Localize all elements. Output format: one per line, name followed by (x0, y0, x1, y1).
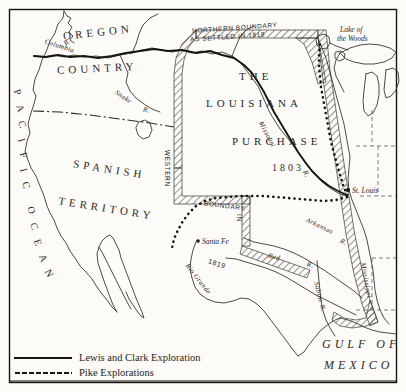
legend-item-lewis-clark: Lewis and Clark Exploration (14, 350, 201, 365)
historical-map: OREGON COUNTRY SPANISH TERRITORY THE LOU… (0, 0, 406, 392)
santa-fe-dot (196, 239, 200, 243)
map-illustration (0, 0, 406, 392)
legend-item-pike: Pike Explorations (14, 365, 201, 380)
legend-key-dotted-line (14, 368, 76, 378)
legend-key-solid-line (14, 353, 76, 363)
legend-label-pike: Pike Explorations (79, 367, 154, 378)
map-legend: Lewis and Clark Exploration Pike Explora… (14, 350, 201, 380)
st-louis-dot (346, 188, 350, 192)
legend-label-lewis-clark: Lewis and Clark Exploration (79, 352, 201, 363)
